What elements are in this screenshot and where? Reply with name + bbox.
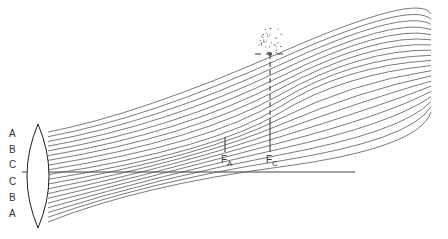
light-ray [48,55,431,170]
blur-dot [275,38,276,39]
zone-label: C [9,176,16,187]
light-ray [48,8,431,132]
convex-lens [27,124,49,228]
zone-label: A [9,208,16,219]
blur-dot [277,37,278,38]
blur-dot [277,42,278,43]
focal-label: FA [221,154,233,168]
blur-dot [269,46,270,47]
blur-dot [276,52,277,53]
light-ray [48,97,431,208]
blur-dot [266,33,267,34]
light-ray [48,45,431,161]
zone-labels: ABCCBA [9,128,16,219]
blur-dot [281,34,282,35]
blur-dot [258,44,259,45]
blur-dot [280,34,281,35]
blur-dot [263,41,264,42]
blur-dot [269,28,270,29]
blur-dot [276,46,277,47]
blur-dot [277,28,278,29]
blur-dot [273,45,274,46]
focal-label: FC [266,154,278,168]
blur-dot [265,46,266,47]
blur-dot [269,34,270,35]
zone-label: B [9,144,16,155]
blur-dot [263,42,264,43]
blur-dot [265,29,266,30]
light-ray [48,14,431,136]
blur-dot [263,34,264,35]
blur-dot [266,41,267,42]
blur-dot [267,36,268,37]
blur-dot [263,39,264,40]
light-ray [48,50,431,165]
blur-dot [280,46,281,47]
blur-dot [271,42,272,43]
blur-dot [260,40,261,41]
blur-dot [261,42,262,43]
blur-dot [261,45,262,46]
zone-label: A [9,128,16,139]
light-rays [48,8,431,222]
light-ray [48,60,431,174]
focus-point [268,52,272,56]
spherical-aberration-diagram: ABCCBA FAFC [0,0,448,239]
blur-dot [276,50,277,51]
light-ray [48,86,431,198]
zone-label: B [9,192,16,203]
zone-label: C [9,159,16,170]
blur-dot [261,36,262,37]
blur-dot [262,37,263,38]
blur-dot [267,34,268,35]
